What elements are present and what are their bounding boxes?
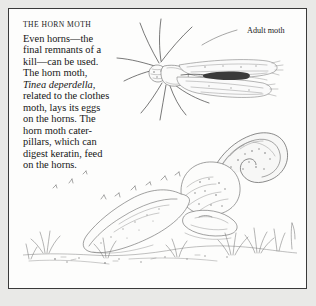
horned-skull-drawing (83, 133, 287, 253)
illustration-page: THE HORN MOTH Even horns—the final remna… (0, 0, 316, 306)
ground-line (23, 246, 297, 264)
illustration-artwork (9, 9, 306, 288)
adult-moth-drawing (117, 19, 283, 120)
illustration-frame: THE HORN MOTH Even horns—the final remna… (8, 8, 307, 289)
label-leader-line (202, 30, 237, 45)
